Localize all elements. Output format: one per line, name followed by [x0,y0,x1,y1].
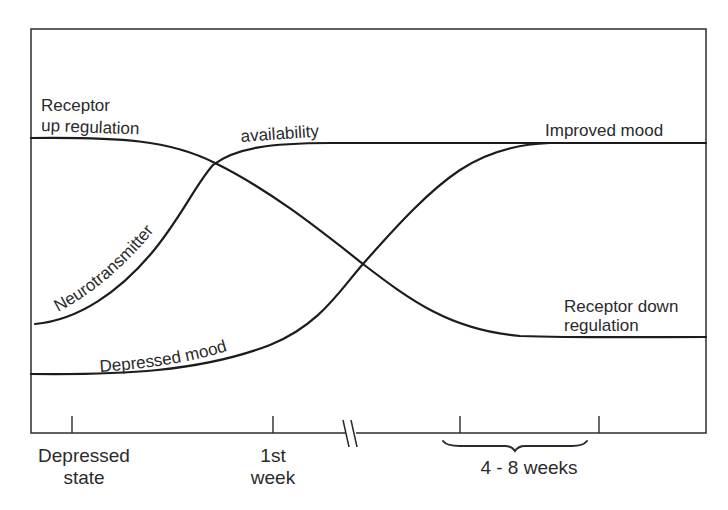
label-receptor-up-line1: Receptor [41,96,110,115]
axis-label-week: week [250,467,296,488]
label-receptor-up-line2: up regulation [41,116,140,138]
label-receptor-down-line1: Receptor down [564,297,678,316]
antidepressant-time-course-diagram: Receptor up regulation availability Impr… [0,0,728,510]
label-neurotransmitter: Neurotransmitter [51,221,158,316]
axis-label-4-8-weeks: 4 - 8 weeks [480,457,577,478]
axis-label-depressed: Depressed [38,445,130,466]
axis-label-state: state [63,467,104,488]
axis-label-1st: 1st [260,445,286,466]
label-improved-mood: Improved mood [545,121,663,140]
range-brace-icon [443,441,587,451]
label-receptor-down-line2: regulation [564,316,639,335]
